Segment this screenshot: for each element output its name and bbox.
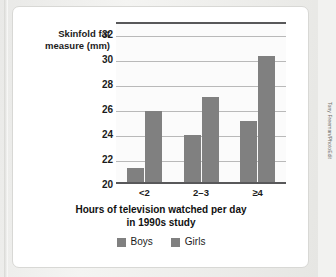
y-tick-label: 28 (89, 79, 113, 90)
x-tick-label: <2 (139, 187, 150, 198)
legend-swatch-icon (117, 238, 126, 247)
chart-legend: BoysGirls (30, 237, 292, 247)
y-tick-label: 24 (89, 129, 113, 140)
image-credit: Tony Freeman/PhotoEdit (325, 102, 335, 188)
y-tick-label: 30 (89, 54, 113, 65)
legend-item-girls: Girls (171, 237, 206, 247)
x-axis-ticks: <22–3≥4 (116, 187, 286, 203)
y-tick-label: 22 (89, 154, 113, 165)
y-tick-label: 26 (89, 104, 113, 115)
x-tick-label: 2–3 (193, 187, 209, 198)
y-tick-label: 20 (89, 179, 113, 190)
x-axis-title-line2: in 1990s study (127, 217, 196, 228)
legend-swatch-icon (171, 238, 180, 247)
y-axis-ticks: 20222426283032 (116, 22, 286, 184)
bar-chart: Skinfold fat measure (mm) 20222426283032… (12, 6, 309, 268)
x-tick-label: ≥4 (252, 187, 263, 198)
figure-root: Tony Freeman/PhotoEdit Skinfold fat meas… (0, 0, 336, 277)
y-tick-label: 32 (89, 29, 113, 40)
y-axis-title-line2: measure (mm) (45, 40, 110, 51)
legend-item-boys: Boys (117, 237, 153, 247)
legend-label: Boys (131, 237, 153, 247)
x-axis-title: Hours of television watched per day in 1… (30, 203, 292, 229)
x-axis-title-line1: Hours of television watched per day (75, 204, 246, 215)
frame-edge-left (4, 0, 8, 277)
legend-label: Girls (185, 237, 206, 247)
